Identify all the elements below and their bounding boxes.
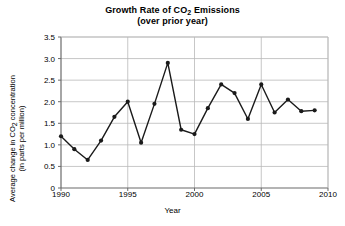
- data-point-marker: [219, 82, 223, 86]
- x-axis-label: Year: [0, 206, 345, 215]
- data-point-marker: [59, 134, 63, 138]
- data-point-marker: [152, 102, 156, 106]
- data-point-marker: [86, 158, 90, 162]
- data-point-marker: [273, 110, 277, 114]
- data-point-marker: [286, 97, 290, 101]
- data-point-marker: [139, 141, 143, 145]
- data-point-marker: [112, 115, 116, 119]
- data-point-marker: [259, 82, 263, 86]
- data-point-marker: [192, 132, 196, 136]
- data-point-marker: [126, 100, 130, 104]
- data-point-marker: [299, 109, 303, 113]
- data-point-marker: [179, 128, 183, 132]
- chart-container: Growth Rate of CO2 Emissions (over prior…: [0, 0, 345, 226]
- data-point-marker: [313, 108, 317, 112]
- data-point-marker: [232, 91, 236, 95]
- data-point-marker: [246, 117, 250, 121]
- plot-area: [0, 0, 345, 226]
- data-point-marker: [166, 61, 170, 65]
- data-point-marker: [206, 106, 210, 110]
- data-point-marker: [72, 147, 76, 151]
- data-point-marker: [99, 138, 103, 142]
- data-series-line: [61, 63, 315, 160]
